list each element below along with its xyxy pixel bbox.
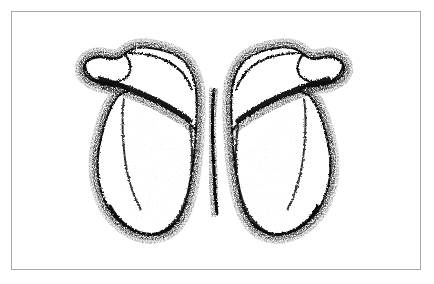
illustration-page: Pair of scapulae, posterior view — [0, 0, 434, 284]
scapulae-figure — [0, 0, 434, 284]
right-scapula — [231, 47, 344, 235]
left-scapula — [84, 47, 197, 235]
medial-borders-seam — [212, 88, 217, 216]
